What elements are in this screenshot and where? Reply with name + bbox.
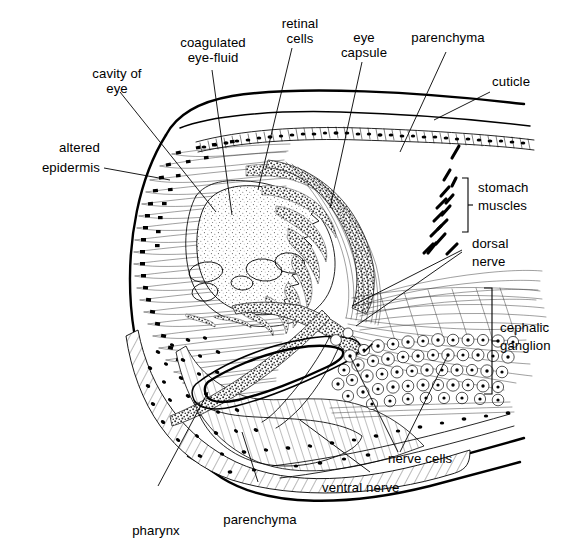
figure-root: cavity of eye coagulated eye-fluid retin… [0, 0, 569, 551]
label-coagulated-eye-fluid-line2: eye-fluid [188, 50, 239, 65]
anatomical-section-diagram: cavity of eye coagulated eye-fluid retin… [0, 0, 569, 551]
cuticle-line [180, 112, 530, 128]
label-eye-capsule-line1: eye [353, 30, 375, 45]
leader-altered-epidermis [104, 168, 170, 180]
stomach-muscles [424, 146, 459, 254]
label-coagulated-eye-fluid-line1: coagulated [180, 35, 246, 50]
leader-cavity-of-eye [120, 92, 216, 212]
label-dorsal-nerve-line2: nerve [472, 254, 506, 269]
stomach-muscles-bracket [462, 178, 468, 232]
label-altered-epidermis-line1: altered [59, 140, 100, 155]
label-pharynx: pharynx [132, 523, 180, 538]
label-stomach-muscles-line2: muscles [478, 198, 527, 213]
label-parenchyma-top: parenchyma [411, 30, 485, 45]
cuticle-band-group [180, 112, 534, 152]
label-ventral-nerve: ventral nerve [322, 480, 400, 495]
label-cavity-of-eye-line1: cavity of [92, 66, 142, 81]
label-dorsal-nerve-line1: dorsal [472, 236, 509, 251]
label-retinal-cells-line2: cells [287, 31, 314, 46]
label-altered-epidermis-line2: epidermis [42, 160, 100, 175]
label-cavity-of-eye-line2: eye [106, 81, 128, 96]
label-parenchyma-bottom: parenchyma [223, 512, 297, 527]
label-eye-capsule-line2: capsule [341, 45, 387, 60]
label-retinal-cells-line1: retinal [282, 16, 319, 31]
nerve-cells-group [331, 328, 519, 410]
label-nerve-cells: nerve cells [388, 451, 452, 466]
label-cuticle: cuticle [492, 74, 530, 89]
label-cephalic-ganglion-line1: cephalic [500, 320, 549, 335]
label-stomach-muscles-line1: stomach [478, 180, 529, 195]
label-cephalic-ganglion-line2: ganglion [500, 338, 551, 353]
